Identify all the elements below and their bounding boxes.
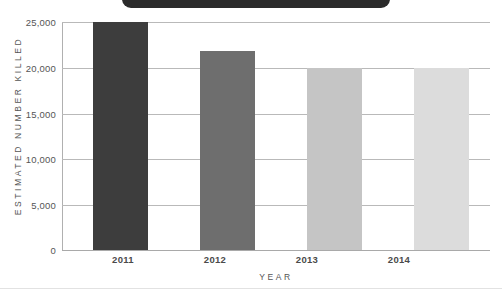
x-axis-title: YEAR xyxy=(62,272,490,282)
x-tick-2014: 2014 xyxy=(359,254,439,265)
x-tick-2011: 2011 xyxy=(83,254,163,265)
y-axis-title: ESTIMATED NUMBER KILLED xyxy=(13,31,23,221)
x-tick-2012: 2012 xyxy=(175,254,255,265)
x-tick-2013: 2013 xyxy=(267,254,347,265)
bar-chart: 25,000 20,000 15,000 10,000 5,000 0 2011… xyxy=(0,0,502,292)
bottom-divider xyxy=(0,288,502,289)
x-tick-labels: 2011 2012 2013 2014 xyxy=(0,0,502,292)
